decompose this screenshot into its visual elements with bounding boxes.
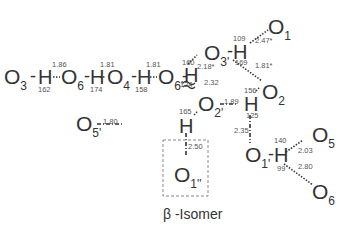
angle-label: 174 (90, 86, 103, 94)
atom-o4: O4 (107, 66, 130, 92)
atom-o5-prime: O5' (76, 113, 101, 139)
diagram-caption: β -Isomer (163, 207, 222, 221)
distance-label: 1.80 (103, 118, 118, 126)
angle-label: 160 (182, 59, 195, 67)
distance-label: 2.03 (298, 147, 313, 155)
angle-label: 158 (135, 86, 148, 94)
hydrogen-atom-o2-prime: H (179, 116, 193, 136)
angle-label: 124 (180, 81, 193, 89)
hydrogen-atom-o1-prime: H (274, 145, 288, 165)
angle-label: 165 (179, 108, 192, 116)
hydrogen-bond-diagram: O3 - H 1.86 162 O6 - H 1.81 174 O4 - H 1… (0, 0, 347, 234)
angle-label: 156 (244, 87, 257, 95)
distance-label: 2.50 (188, 143, 203, 151)
hydrogen-atom: H (38, 67, 52, 87)
covalent-bond: - (30, 67, 36, 85)
angle-label: 99 (277, 165, 285, 173)
hydrogen-atom: H (90, 67, 104, 87)
bond-lines (0, 0, 347, 234)
distance-label: 2.35 (234, 127, 249, 135)
atom-o5: O5 (312, 124, 335, 150)
atom-o6-right: O6 (312, 181, 335, 207)
angle-label: 162 (38, 86, 51, 94)
hydrogen-atom: H (137, 67, 151, 87)
atom-o3-prime: O3' (204, 42, 229, 68)
distance-label: 1.89 (224, 98, 239, 106)
distance-label: 2.80 (298, 163, 313, 171)
angle-label: 140 (274, 137, 287, 145)
distance-label: 1.81* (255, 62, 273, 70)
angle-label: 169 (235, 59, 248, 67)
angle-label: 109 (233, 35, 246, 43)
distance-label: 2.32 (204, 79, 219, 87)
atom-o6: O6 (61, 66, 84, 92)
angle-label: 125 (246, 112, 259, 120)
atom-o1-double-prime: O1'' (174, 164, 202, 190)
atom-o1: O1 (268, 16, 291, 42)
atom-o2-prime: O2' (198, 93, 223, 119)
atom-o2: O2 (262, 81, 285, 107)
atom-o1-prime: O1' (245, 144, 270, 170)
atom-o3: O3 (4, 66, 27, 92)
